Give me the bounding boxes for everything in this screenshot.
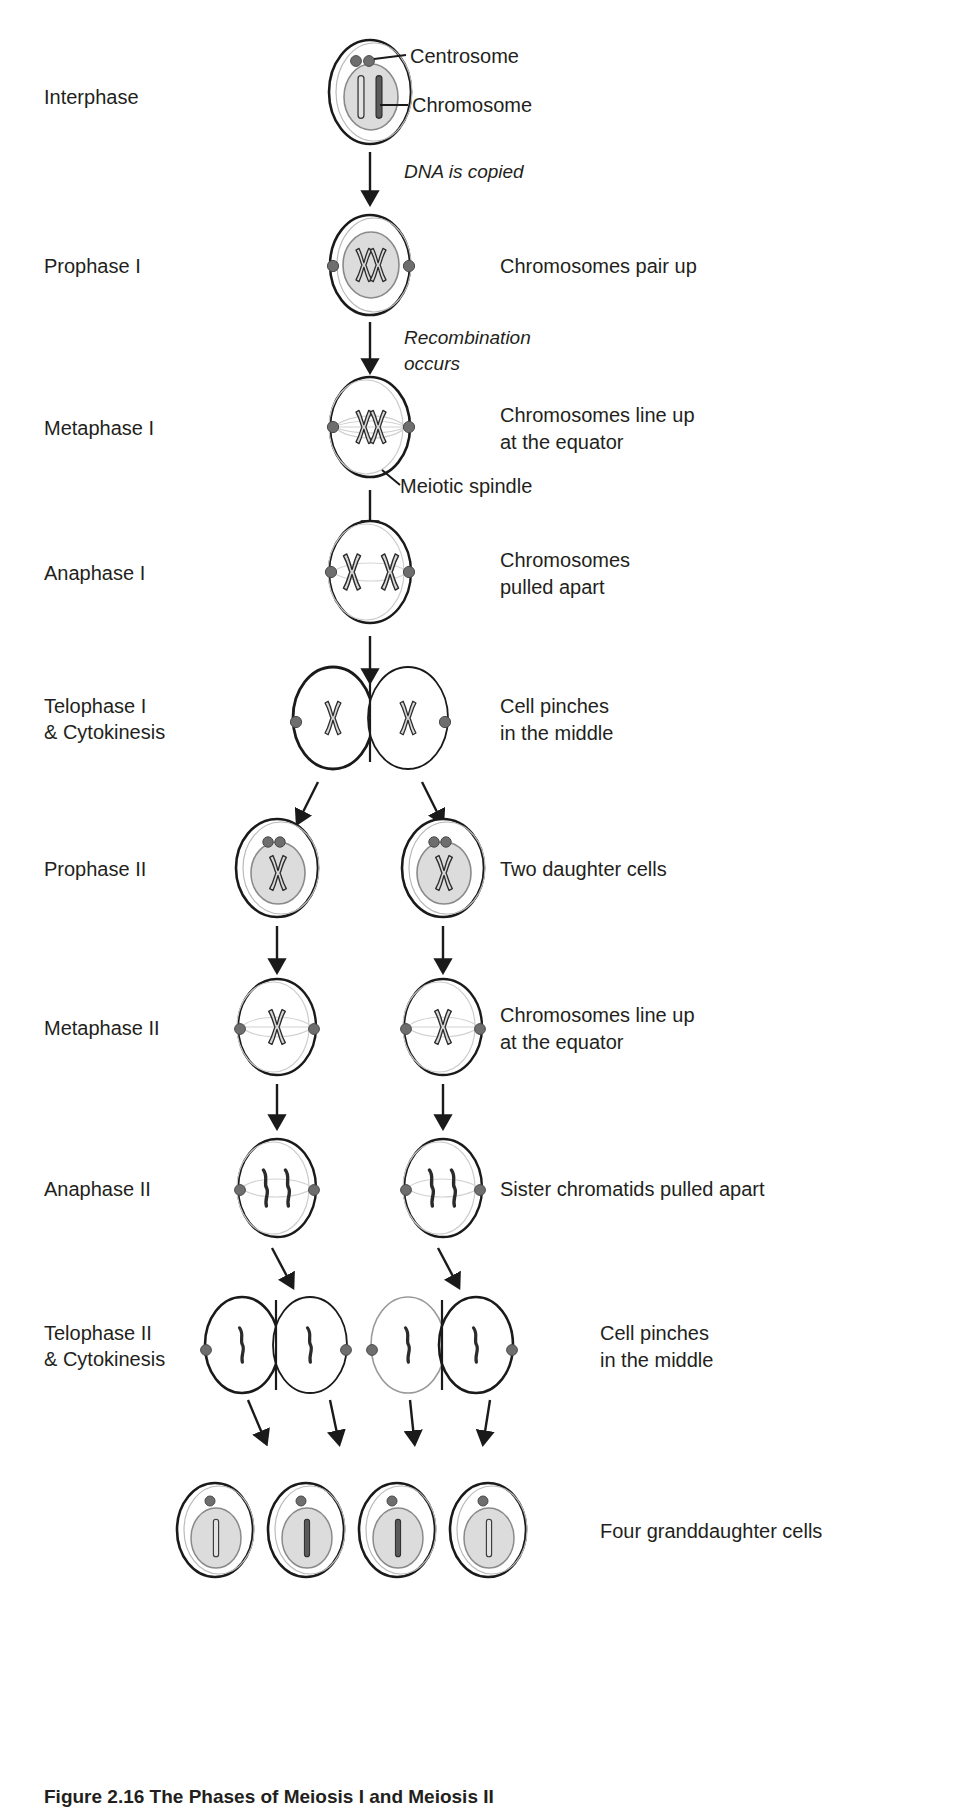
cell-granddaughter-3 — [359, 1483, 436, 1577]
figure-caption: Figure 2.16 The Phases of Meiosis I and … — [44, 1786, 494, 1808]
description-prophase-1: Chromosomes pair up — [500, 253, 697, 280]
callout-meiotic-spindle: Meiotic spindle — [400, 474, 532, 498]
cell-telophase-1 — [290, 667, 450, 769]
phase-label-anaphase-2: Anaphase II — [44, 1176, 151, 1202]
cell-metaphase-2-right — [401, 979, 486, 1075]
cell-metaphase-2-left — [235, 979, 320, 1075]
arrow-telophase2-to-granddaughter-4 — [484, 1400, 490, 1438]
arrow-telophase2-to-granddaughter-1 — [248, 1400, 264, 1438]
cell-interphase — [329, 40, 412, 144]
phase-label-telophase-2: Telophase II & Cytokinesis — [44, 1320, 165, 1372]
description-metaphase-2: Chromosomes line up at the equator — [500, 1002, 695, 1056]
description-prophase-2: Two daughter cells — [500, 856, 667, 883]
cell-prophase-1 — [327, 215, 414, 315]
cell-prophase-2-left — [236, 819, 319, 917]
arrow-anaphase2-to-telophase2-right — [438, 1248, 456, 1282]
arrow-telophase1-to-prophase2-right — [422, 782, 440, 818]
description-granddaughter: Four granddaughter cells — [600, 1518, 822, 1545]
cell-telophase-2-pair-left — [201, 1297, 352, 1393]
phase-label-prophase-1: Prophase I — [44, 253, 141, 279]
description-anaphase-1: Chromosomes pulled apart — [500, 547, 630, 601]
cell-telophase-2-pair-right — [367, 1297, 518, 1393]
callout-chromosome: Chromosome — [412, 93, 532, 117]
cell-anaphase-2-right — [401, 1139, 486, 1237]
cell-granddaughter-2 — [268, 1483, 345, 1577]
cell-anaphase-2-left — [235, 1139, 320, 1237]
cell-prophase-2-right — [402, 819, 485, 917]
description-telophase-1: Cell pinches in the middle — [500, 693, 613, 747]
callout-centrosome: Centrosome — [410, 44, 519, 68]
description-anaphase-2: Sister chromatids pulled apart — [500, 1176, 765, 1203]
phase-label-metaphase-1: Metaphase I — [44, 415, 154, 441]
description-metaphase-1: Chromosomes line up at the equator — [500, 402, 695, 456]
leader-meiotic-spindle — [382, 470, 400, 485]
cell-metaphase-1 — [327, 377, 414, 485]
phase-label-prophase-2: Prophase II — [44, 856, 146, 882]
arrow-telophase2-to-granddaughter-3 — [410, 1400, 414, 1438]
phase-label-telophase-1: Telophase I & Cytokinesis — [44, 693, 165, 745]
cell-anaphase-1 — [325, 521, 414, 623]
cell-granddaughter-4 — [450, 1483, 527, 1577]
annotation-recombination: Recombination occurs — [404, 325, 531, 377]
arrow-anaphase2-to-telophase2-left — [272, 1248, 290, 1282]
description-telophase-2: Cell pinches in the middle — [600, 1320, 713, 1374]
phase-label-interphase: Interphase — [44, 84, 139, 110]
phase-label-anaphase-1: Anaphase I — [44, 560, 145, 586]
phase-label-metaphase-2: Metaphase II — [44, 1015, 160, 1041]
annotation-dna-copied: DNA is copied — [404, 159, 524, 185]
cell-granddaughter-1 — [177, 1483, 254, 1577]
arrow-telophase1-to-prophase2-left — [300, 782, 318, 818]
arrow-telophase2-to-granddaughter-2 — [330, 1400, 338, 1438]
